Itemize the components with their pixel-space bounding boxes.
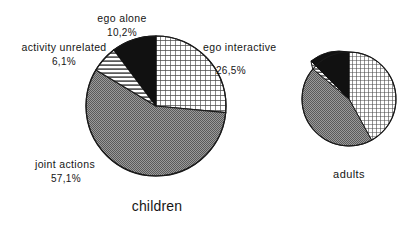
- value-ego-interactive: 26,5%: [216, 65, 246, 76]
- children-pie: [86, 36, 226, 176]
- children-chart-caption: children: [132, 198, 183, 214]
- pie-chart-figure: ego alone 10,2% activity unrelated 6,1% …: [0, 0, 420, 228]
- adults-pie: [302, 51, 396, 146]
- value-ego-alone: 10,2%: [107, 27, 137, 38]
- value-joint-actions: 57,1%: [51, 173, 81, 184]
- label-joint-actions: joint actions: [35, 158, 95, 170]
- label-ego-interactive: ego interactive: [203, 41, 277, 53]
- label-activity-unrelated: activity unrelated: [21, 41, 106, 53]
- value-activity-unrelated: 6,1%: [52, 56, 76, 67]
- pie-charts-svg: [0, 0, 420, 228]
- label-ego-alone: ego alone: [97, 12, 146, 24]
- adults-chart-caption: adults: [333, 168, 365, 180]
